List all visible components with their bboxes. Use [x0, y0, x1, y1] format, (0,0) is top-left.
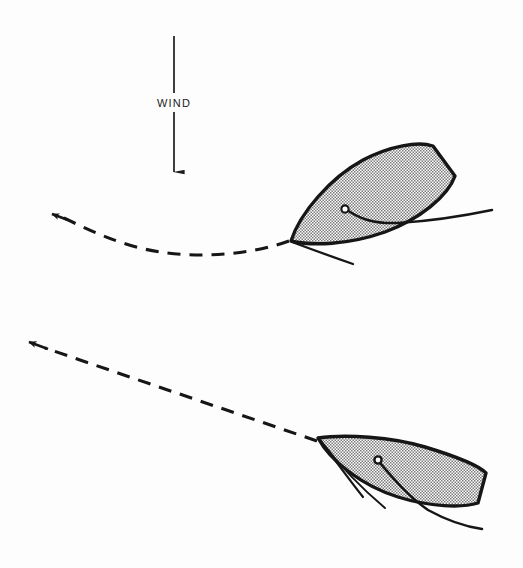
lower-track-arrowhead	[29, 342, 48, 349]
lower-boat-mast-icon	[374, 456, 381, 463]
upper-track-group	[52, 214, 289, 255]
upper-track-arrowhead	[52, 214, 68, 220]
upper-track-path	[62, 217, 289, 255]
upper-boat	[291, 144, 492, 264]
wind-arrow-group: WIND	[157, 36, 191, 172]
lower-track-path	[45, 348, 317, 441]
lower-track-group	[29, 342, 317, 441]
diagram-canvas: WIND	[0, 0, 523, 568]
sailing-diagram-figure: WIND	[0, 0, 523, 568]
lower-boat	[318, 436, 486, 529]
wind-label: WIND	[157, 97, 191, 109]
upper-boat-mast-icon	[341, 205, 348, 212]
upper-boat-hull	[291, 144, 455, 244]
